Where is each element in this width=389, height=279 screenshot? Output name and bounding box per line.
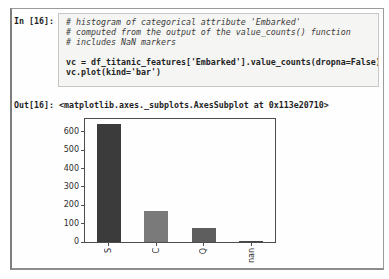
y-tick-mark [81,150,84,151]
x-tick-mark [156,243,157,246]
bar-S [97,124,121,242]
code-line: # histogram of categorical attribute 'Em… [66,17,371,27]
y-tick-label: 300 [53,182,79,191]
y-tick-label: 500 [53,145,79,154]
x-tick-label: nan [247,248,256,263]
code-line: # includes NaN markers [66,37,371,47]
notebook-figure-frame: In [16]: # histogram of categorical attr… [10,8,384,270]
x-tick-label: C [152,248,161,254]
code-line: vc.plot(kind='bar') [66,67,371,77]
y-tick-mark [81,131,84,132]
x-tick-label: S [104,248,113,253]
bar-C [144,211,168,242]
x-tick-mark [108,243,109,246]
y-tick-label: 200 [53,200,79,209]
plot-area: 0100200300400500600SCQnan [84,118,276,243]
y-tick-mark [81,223,84,224]
y-tick-label: 100 [53,219,79,228]
y-tick-label: 400 [53,164,79,173]
y-tick-mark [81,242,84,243]
bar-nan [239,241,263,242]
y-tick-label: 0 [53,237,79,246]
code-line [66,47,371,57]
out-prompt-label: Out[16]: [14,100,52,110]
y-tick-mark [81,205,84,206]
x-tick-mark [251,243,252,246]
code-input-cell[interactable]: # histogram of categorical attribute 'Em… [58,13,379,87]
code-line: vc = df_titanic_features['Embarked'].val… [66,57,371,67]
output-repr-text: <matplotlib.axes._subplots.AxesSubplot a… [59,100,329,110]
y-tick-mark [81,168,84,169]
code-line: # computed from the output of the value_… [66,27,371,37]
bar-Q [192,228,216,242]
in-prompt-label: In [16]: [14,16,52,26]
x-tick-label: Q [199,248,208,254]
x-tick-mark [203,243,204,246]
y-tick-label: 600 [53,127,79,136]
y-tick-mark [81,186,84,187]
